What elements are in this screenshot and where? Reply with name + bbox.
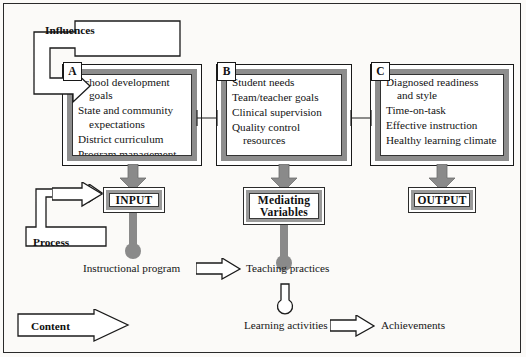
- list-item: Clinical supervision: [228, 106, 343, 119]
- list-item: Healthy learning climate: [382, 134, 505, 147]
- arrow-process-to-input: [52, 182, 104, 208]
- caption-learning-activities: Learning activities: [244, 319, 328, 331]
- box-tag-a: A: [63, 62, 82, 81]
- box-tag-b: B: [217, 62, 236, 81]
- result-box-mediating-variables: Mediating Variables: [243, 187, 325, 225]
- content-box-b: Student needs Team/teacher goals Clinica…: [216, 64, 352, 166]
- caption-teaching-practices: Teaching practices: [246, 262, 329, 274]
- list-item: Diagnosed readiness and style: [382, 76, 505, 103]
- arrow-instructional-to-teaching: [196, 258, 242, 280]
- mediating-variables-label-line1: Mediating: [258, 194, 310, 207]
- connector-a-to-b: [196, 108, 218, 128]
- process-label: Process: [33, 236, 69, 248]
- influences-label: Influences: [45, 24, 95, 36]
- list-item: Program management: [74, 148, 193, 155]
- list-item: State and community expectations: [74, 104, 193, 131]
- list-item: Quality control resources: [228, 121, 343, 148]
- content-box-c: Diagnosed readiness and style Time-on-ta…: [370, 64, 514, 166]
- content-box-b-items: Student needs Team/teacher goals Clinica…: [228, 76, 343, 155]
- mediating-variables-label-line2: Variables: [260, 206, 308, 219]
- diagram-canvas: Influences School development goals Stat…: [0, 0, 526, 357]
- content-label: Content: [31, 320, 70, 332]
- connector-b-to-c: [350, 108, 372, 128]
- caption-achievements: Achievements: [381, 319, 445, 331]
- thermometer-learning-activities: [273, 282, 297, 316]
- arrow-learning-to-achievements: [330, 315, 376, 337]
- result-box-output: OUTPUT: [408, 187, 476, 213]
- list-item: Time-on-task: [382, 104, 505, 117]
- list-item: District curriculum: [74, 133, 193, 146]
- box-tag-c: C: [371, 62, 390, 81]
- pin-ball-input: [125, 243, 141, 259]
- list-item: Student needs: [228, 76, 343, 89]
- list-item: Effective instruction: [382, 119, 505, 132]
- caption-instructional-program: Instructional program: [83, 262, 180, 274]
- output-label: OUTPUT: [417, 194, 466, 207]
- content-box-c-items: Diagnosed readiness and style Time-on-ta…: [382, 76, 505, 155]
- list-item: Team/teacher goals: [228, 91, 343, 104]
